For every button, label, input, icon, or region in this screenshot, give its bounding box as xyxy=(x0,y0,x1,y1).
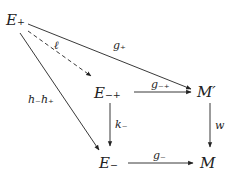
label-ell: ℓ xyxy=(54,40,59,51)
label-h-minus-h-plus: h₋h₊ xyxy=(28,94,54,105)
label-w: w xyxy=(215,120,224,131)
node-e-minus: E₋ xyxy=(99,156,118,171)
node-m-prime: M′ xyxy=(197,85,216,100)
label-g-minus: g₋ xyxy=(153,150,166,161)
label-g-minus-plus: g₋₊ xyxy=(151,79,170,90)
node-m: M xyxy=(200,156,215,171)
arrow-h-minus-h-plus xyxy=(20,33,99,150)
label-g-plus: g₊ xyxy=(113,40,126,51)
node-e-minus-plus: E₋₊ xyxy=(94,86,121,101)
label-k-minus: k₋ xyxy=(115,119,127,130)
node-e-plus: E₊ xyxy=(6,13,25,28)
arrow-ell-dashed xyxy=(28,31,91,76)
